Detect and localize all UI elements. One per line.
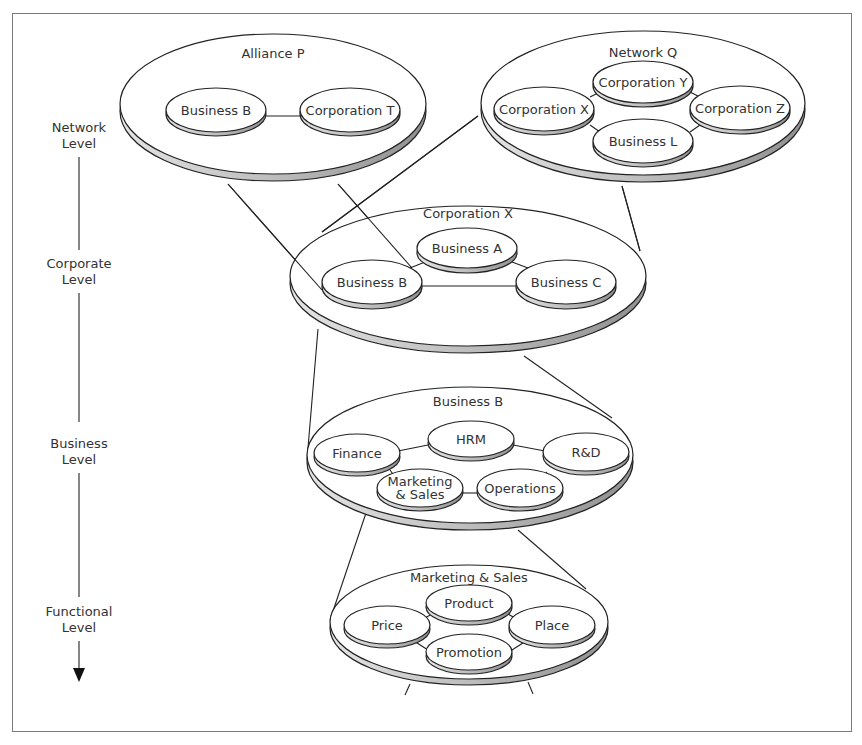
svg-text:Business B: Business B xyxy=(337,275,407,290)
alliance-p-disc: Alliance P Business B Corporation T xyxy=(120,34,426,181)
marketing-sales-disc: Marketing & Sales Product Price Place Pr… xyxy=(330,565,608,685)
node-hrm: HRM xyxy=(428,421,514,461)
business-b-disc: Business B HRM Finance R&D Marketing & S… xyxy=(307,387,633,530)
svg-text:R&D: R&D xyxy=(571,445,600,460)
node-business-b: Business B xyxy=(166,88,266,136)
svg-text:Business C: Business C xyxy=(531,275,602,290)
svg-text:HRM: HRM xyxy=(456,432,486,447)
network-q-disc: Network Q Corporation Y Corporation X Co… xyxy=(481,31,805,182)
node-corporation-t: Corporation T xyxy=(300,88,400,136)
level-label-corporate-2: Level xyxy=(62,272,96,287)
node-promotion: Promotion xyxy=(426,634,512,674)
svg-text:Price: Price xyxy=(371,618,403,633)
svg-text:Business A: Business A xyxy=(432,241,502,256)
node-corporation-z: Corporation Z xyxy=(690,86,790,134)
level-label-network-2: Level xyxy=(62,136,96,151)
node-product: Product xyxy=(426,585,512,625)
svg-text:Place: Place xyxy=(535,618,570,633)
svg-text:Operations: Operations xyxy=(484,481,556,496)
corporation-x-title: Corporation X xyxy=(423,206,513,221)
business-b-title: Business B xyxy=(433,394,503,409)
network-q-title: Network Q xyxy=(609,45,678,60)
node-operations: Operations xyxy=(477,469,563,511)
level-label-corporate: Corporate xyxy=(47,256,112,271)
node-place: Place xyxy=(509,606,595,648)
svg-text:Promotion: Promotion xyxy=(436,645,502,660)
node-corporation-x: Corporation X xyxy=(494,87,594,135)
node-business-a: Business A xyxy=(417,228,517,273)
levels-of-strategy-diagram: Network Level Corporate Level Business L… xyxy=(0,0,862,745)
marketing-sales-title: Marketing & Sales xyxy=(410,570,528,585)
svg-text:Corporation Z: Corporation Z xyxy=(695,101,785,116)
svg-text:Corporation X: Corporation X xyxy=(499,102,589,117)
svg-text:Product: Product xyxy=(444,596,493,611)
alliance-p-title: Alliance P xyxy=(241,46,304,61)
svg-text:Finance: Finance xyxy=(332,446,382,461)
node-corporation-y: Corporation Y xyxy=(593,61,693,107)
node-r-and-d: R&D xyxy=(543,433,629,475)
level-label-business-2: Level xyxy=(62,452,96,467)
level-label-network: Network xyxy=(52,120,107,135)
level-label-functional: Functional xyxy=(46,604,113,619)
svg-text:Business B: Business B xyxy=(181,103,251,118)
node-business-c: Business C xyxy=(516,260,616,309)
arrow-down-icon xyxy=(73,668,85,682)
level-label-business: Business xyxy=(50,436,108,451)
node-price: Price xyxy=(344,606,430,648)
svg-text:Corporation Y: Corporation Y xyxy=(599,75,688,90)
level-label-functional-2: Level xyxy=(62,620,96,635)
node-business-l: Business L xyxy=(593,119,693,167)
node-marketing-sales-line2: & Sales xyxy=(396,487,445,502)
node-business-b-corp: Business B xyxy=(322,260,422,309)
level-axis: Network Level Corporate Level Business L… xyxy=(46,120,113,682)
svg-text:Corporation T: Corporation T xyxy=(306,103,395,118)
svg-text:Business L: Business L xyxy=(609,134,678,149)
node-finance: Finance xyxy=(314,434,400,476)
